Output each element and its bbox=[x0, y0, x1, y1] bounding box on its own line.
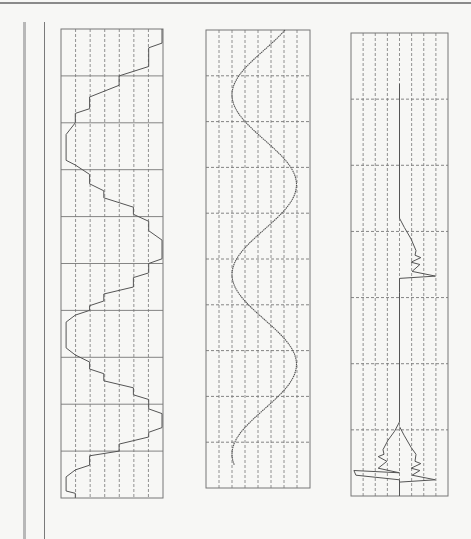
smooth-sine-plot bbox=[206, 30, 310, 488]
waveform-trace bbox=[232, 30, 297, 465]
transient-spike-plot bbox=[351, 33, 448, 496]
waveform-trace bbox=[354, 84, 436, 496]
waveform-trace bbox=[400, 427, 436, 483]
waveform-figure bbox=[0, 0, 471, 539]
staircase-sine-plot bbox=[61, 29, 163, 498]
